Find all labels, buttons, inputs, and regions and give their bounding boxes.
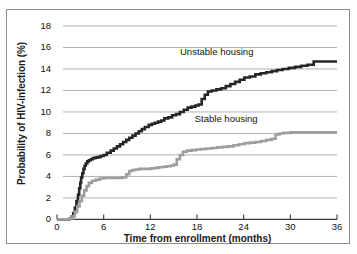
x-tick-label: 30 bbox=[275, 222, 305, 232]
y-tick-label: 2 bbox=[25, 193, 51, 203]
x-tick-label: 0 bbox=[42, 222, 72, 232]
y-tick-label: 12 bbox=[25, 85, 51, 95]
x-tick-label: 24 bbox=[229, 222, 259, 232]
x-axis-title: Time from enrollment (months) bbox=[57, 233, 338, 244]
y-tick-label: 6 bbox=[25, 150, 51, 160]
xtick-marks-group bbox=[57, 214, 337, 219]
series-line-unstable-housing bbox=[57, 61, 337, 219]
x-tick-label: 6 bbox=[89, 222, 119, 232]
y-tick-label: 4 bbox=[25, 171, 51, 181]
x-tick-label: 36 bbox=[322, 222, 352, 232]
y-tick-label: 10 bbox=[25, 107, 51, 117]
chart-canvas bbox=[0, 0, 357, 254]
stable-housing-label: Stable housing bbox=[195, 113, 258, 124]
unstable-housing-label: Unstable housing bbox=[180, 46, 253, 57]
y-tick-label: 18 bbox=[25, 21, 51, 31]
data-series-group bbox=[57, 61, 337, 219]
y-tick-label: 8 bbox=[25, 128, 51, 138]
y-tick-label: 16 bbox=[25, 42, 51, 52]
x-tick-label: 12 bbox=[135, 222, 165, 232]
x-tick-label: 18 bbox=[182, 222, 212, 232]
series-line-stable-housing bbox=[57, 132, 337, 219]
figure-container: Probability of HIV-infection (%) Time fr… bbox=[0, 0, 357, 254]
y-tick-label: 14 bbox=[25, 64, 51, 74]
